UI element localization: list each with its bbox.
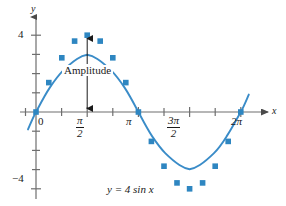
y-tick-label-4: 4 [18,29,24,40]
amplitude-annotation-label: Amplitude [62,65,113,76]
data-point [110,55,116,61]
fraction-denominator: 2 [167,128,180,140]
plot-canvas [0,0,286,206]
x-tick-label-three-pi-over-2: 3π 2 [167,115,180,139]
data-point [225,139,231,145]
fraction-numerator: 3π [167,115,180,128]
fraction-numerator: π [76,115,84,128]
sine-wave-figure: y x 4 −4 0 π 2π π 2 3π 2 Amplitude y = 4… [0,0,286,206]
data-point [72,38,78,44]
x-tick-label-pi: π [126,116,132,127]
y-tick-label-negative-4: −4 [12,173,24,184]
data-point [200,180,206,186]
data-point [149,139,155,145]
fraction-denominator: 2 [76,128,84,140]
x-axis-label: x [272,106,276,116]
x-tick-label-pi-over-2: π 2 [76,115,84,139]
data-point [212,163,218,169]
y-axis-label: y [31,4,35,14]
data-point [123,80,129,86]
data-point [174,180,180,186]
data-point [136,109,142,115]
data-point [97,38,103,44]
data-point [46,80,52,86]
x-tick-label-zero: 0 [38,116,44,127]
data-point [84,32,90,38]
data-point [187,186,193,192]
data-point [59,55,65,61]
data-point [33,109,39,115]
data-point [161,163,167,169]
data-point [238,109,244,115]
x-tick-label-two-pi: 2π [231,116,242,127]
equation-caption: y = 4 sin x [107,184,154,195]
